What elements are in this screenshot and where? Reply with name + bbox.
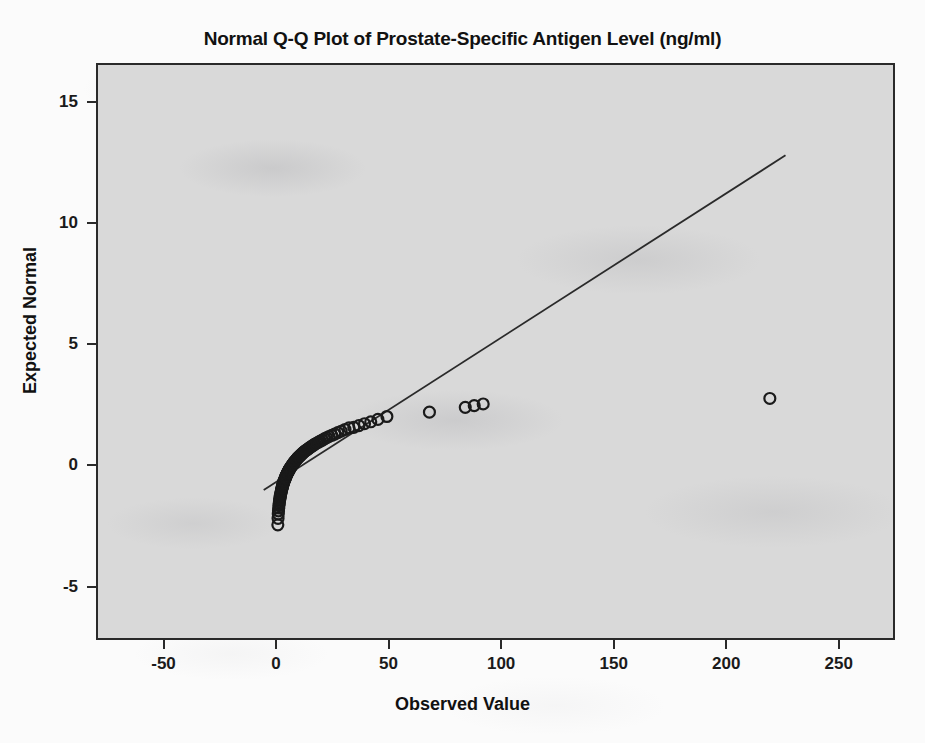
chart-title: Normal Q-Q Plot of Prostate-Specific Ant… (0, 28, 925, 50)
y-tick-mark (87, 222, 96, 224)
x-tick-label: 50 (379, 654, 398, 674)
x-tick-mark (163, 640, 165, 649)
data-point (424, 407, 435, 418)
plot-area (96, 63, 895, 640)
y-tick-label: 0 (16, 455, 78, 475)
y-tick-mark (87, 586, 96, 588)
x-tick-label: 100 (487, 654, 515, 674)
x-tick-label: 200 (712, 654, 740, 674)
x-tick-mark (275, 640, 277, 649)
y-tick-label: 10 (16, 213, 78, 233)
x-tick-label: 150 (599, 654, 627, 674)
x-tick-mark (838, 640, 840, 649)
x-tick-mark (388, 640, 390, 649)
x-tick-mark (725, 640, 727, 649)
y-tick-label: -5 (16, 577, 78, 597)
data-point (764, 393, 775, 404)
reference-line (264, 155, 786, 490)
x-tick-mark (500, 640, 502, 649)
x-tick-mark (613, 640, 615, 649)
y-tick-label: 15 (16, 92, 78, 112)
qq-plot-figure: Normal Q-Q Plot of Prostate-Specific Ant… (0, 0, 925, 743)
y-tick-mark (87, 464, 96, 466)
x-tick-label: 250 (825, 654, 853, 674)
x-axis-title: Observed Value (0, 694, 925, 715)
x-tick-label: -50 (151, 654, 176, 674)
plot-canvas (98, 65, 893, 638)
x-tick-label: 0 (271, 654, 280, 674)
data-point-group (272, 393, 775, 530)
y-tick-label: 5 (16, 334, 78, 354)
y-tick-mark (87, 101, 96, 103)
y-tick-mark (87, 343, 96, 345)
